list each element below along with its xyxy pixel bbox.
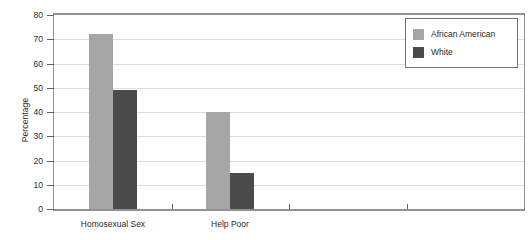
y-axis-tick-mark xyxy=(47,39,54,40)
y-axis-tick-mark xyxy=(47,161,54,162)
legend-item-label: African American xyxy=(431,29,495,39)
y-axis-tick-label: 0 xyxy=(9,204,43,214)
y-axis-tick-mark xyxy=(47,209,54,210)
bar xyxy=(113,90,137,209)
legend-item: White xyxy=(413,43,517,61)
y-axis-tick-mark xyxy=(47,88,54,89)
y-axis-tick-mark xyxy=(47,112,54,113)
y-axis-tick-label: 70 xyxy=(9,34,43,44)
x-axis-tick-mark xyxy=(172,204,173,209)
y-axis-tick-mark xyxy=(47,185,54,186)
x-axis-tick-mark xyxy=(289,204,290,209)
y-axis-tick-label: 80 xyxy=(9,10,43,20)
y-axis-tick-mark xyxy=(47,136,54,137)
legend-item: African American xyxy=(413,25,517,43)
y-axis-tick-label: 50 xyxy=(9,83,43,93)
x-axis-tick-mark xyxy=(407,204,408,209)
bar xyxy=(89,34,113,209)
gridline xyxy=(54,88,524,89)
chart-legend: African American White xyxy=(405,18,518,68)
legend-swatch-icon xyxy=(413,29,424,40)
bar xyxy=(206,112,230,209)
bar xyxy=(230,173,254,209)
y-axis-tick-label: 40 xyxy=(9,107,43,117)
legend-item-label: White xyxy=(431,47,453,57)
y-axis-tick-label: 20 xyxy=(9,156,43,166)
x-axis-category-label: Help Poor xyxy=(160,219,300,229)
y-axis-tick-label: 60 xyxy=(9,59,43,69)
y-axis-tick-label: 10 xyxy=(9,180,43,190)
legend-swatch-icon xyxy=(413,47,424,58)
y-axis-tick-label: 30 xyxy=(9,131,43,141)
y-axis-tick-mark xyxy=(47,15,54,16)
y-axis-tick-mark xyxy=(47,64,54,65)
bar-chart: Percentage 01020304050607080 Homosexual … xyxy=(0,0,532,240)
